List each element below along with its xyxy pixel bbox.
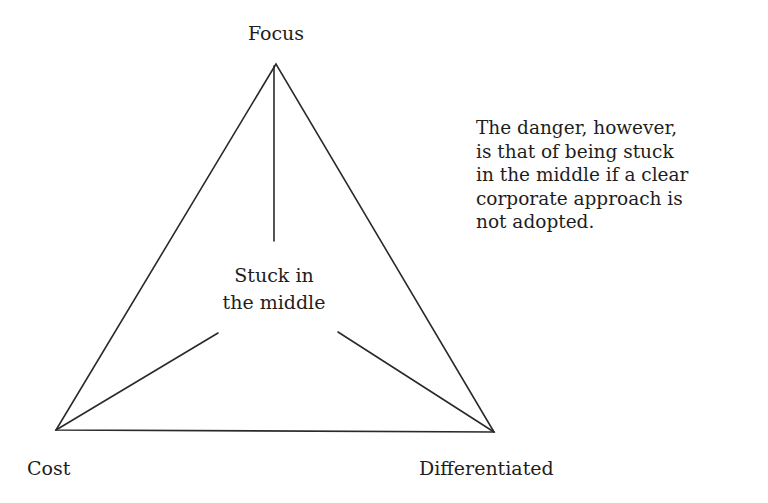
annotation-line: corporate approach is: [476, 187, 766, 211]
annotation-line: is that of being stuck: [476, 140, 766, 164]
triangle-outline: [56, 64, 494, 432]
annotation-line: The danger, however,: [476, 116, 766, 140]
strategy-triangle-diagram: [0, 0, 768, 503]
vertex-label-cost: Cost: [27, 456, 70, 480]
annotation-line: in the middle if a clear: [476, 163, 766, 187]
spoke-from-cost: [56, 333, 218, 430]
center-label-line: Stuck in: [204, 262, 344, 289]
vertex-label-focus: Focus: [236, 21, 316, 45]
annotation-line: not adopted.: [476, 210, 766, 234]
spoke-from-differentiated: [338, 332, 494, 432]
vertex-label-differentiated: Differentiated: [419, 456, 554, 480]
annotation-text: The danger, however, is that of being st…: [476, 116, 766, 234]
center-label-stuck-in-the-middle: Stuck in the middle: [204, 262, 344, 316]
center-label-line: the middle: [204, 289, 344, 316]
